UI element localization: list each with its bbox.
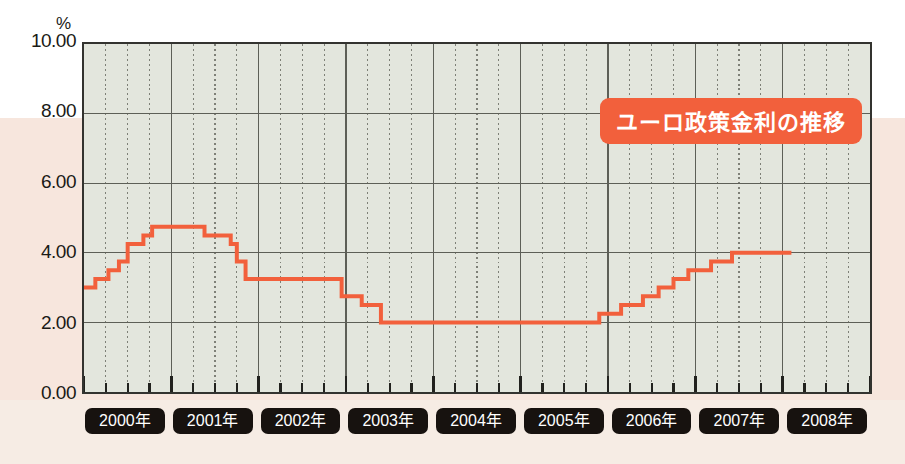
x-axis-year-chip-2003: 2003年 (348, 408, 428, 434)
x-axis-year-chip-2006: 2006年 (612, 408, 692, 434)
chart-figure: % 10.008.006.004.002.000.00 2000年2001年20… (0, 0, 905, 464)
y-axis-tick-label: 0.00 (4, 382, 76, 404)
y-axis-tick-label: 8.00 (4, 100, 76, 122)
x-axis-year-chip-2004: 2004年 (436, 408, 516, 434)
plot-area (82, 42, 872, 394)
y-axis-tick-label: 2.00 (4, 312, 76, 334)
chart-title-badge: ユーロ政策金利の推移 (600, 98, 862, 144)
x-axis-year-chip-2007: 2007年 (699, 408, 779, 434)
series-line-policy-rate (84, 227, 791, 323)
y-axis: % 10.008.006.004.002.000.00 (0, 0, 76, 464)
x-axis-year-chip-2001: 2001年 (173, 408, 253, 434)
x-axis-tick-marks (84, 376, 870, 392)
y-axis-tick-label: 6.00 (4, 171, 76, 193)
y-axis-tick-label: 10.00 (4, 30, 76, 52)
x-axis-year-chip-2008: 2008年 (787, 408, 867, 434)
grid-and-series-layer (84, 44, 870, 392)
x-axis-year-chip-2002: 2002年 (261, 408, 341, 434)
y-axis-tick-label: 4.00 (4, 241, 76, 263)
x-axis-year-chip-2000: 2000年 (85, 408, 165, 434)
x-axis: 2000年2001年2002年2003年2004年2005年2006年2007年… (82, 408, 872, 438)
minor-gridlines (106, 44, 848, 392)
x-axis-year-chip-2005: 2005年 (524, 408, 604, 434)
